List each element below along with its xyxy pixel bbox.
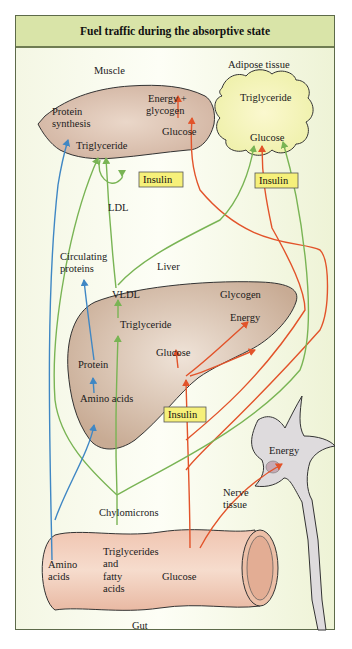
label-vldl: VLDL <box>112 289 140 300</box>
insulin-box-muscle: Insulin <box>139 172 183 187</box>
insulin-label: Insulin <box>168 409 198 420</box>
label-chylomicrons: Chylomicrons <box>99 507 159 518</box>
label-gut-lipids-2: and <box>103 558 119 569</box>
fuel-traffic-diagram: Muscle Energy + glycogen Protein synthes… <box>0 0 352 649</box>
label-muscle-triglyceride: Triglyceride <box>76 140 128 151</box>
insulin-label: Insulin <box>259 175 289 186</box>
label-gut-lipids-3: fatty <box>103 571 123 582</box>
label-protein-synthesis-1: Protein <box>52 106 83 117</box>
muscle-title: Muscle <box>94 65 125 76</box>
gut-body <box>42 530 260 611</box>
label-gut-lipids-1: Triglycerides <box>103 546 159 557</box>
label-nerve-tissue-1: Nerve <box>223 487 249 498</box>
label-liver-protein: Protein <box>78 359 109 370</box>
label-liver-glucose: Glucose <box>156 347 191 358</box>
label-gut-amino-2: acids <box>48 571 70 582</box>
label-liver-amino-acids: Amino acids <box>80 393 133 404</box>
label-nerve-energy: Energy <box>269 445 300 456</box>
label-gut-glucose: Glucose <box>162 571 197 582</box>
label-adipose-triglyceride: Triglyceride <box>240 92 292 103</box>
label-energy-glycogen-1: Energy + <box>148 93 187 104</box>
label-circulating-proteins-1: Circulating <box>60 251 108 262</box>
label-gut-amino-1: Amino <box>48 559 77 570</box>
label-gut-lipids-4: acids <box>103 583 125 594</box>
insulin-box-liver: Insulin <box>164 407 206 422</box>
label-adipose-glucose: Glucose <box>250 132 285 143</box>
liver-title: Liver <box>157 261 180 272</box>
label-circulating-proteins-2: proteins <box>60 263 94 274</box>
label-energy-glycogen-2: glycogen <box>146 105 185 116</box>
label-nerve-tissue-2: tissue <box>223 499 247 510</box>
label-liver-triglyceride: Triglyceride <box>120 319 172 330</box>
insulin-box-adipose: Insulin <box>255 173 298 188</box>
insulin-label: Insulin <box>143 174 173 185</box>
label-liver-glycogen: Glycogen <box>220 289 262 300</box>
adipose-title: Adipose tissue <box>228 59 290 70</box>
gut-lumen <box>247 536 273 600</box>
gut-title: Gut <box>132 620 148 631</box>
label-muscle-glucose: Glucose <box>162 126 197 137</box>
label-protein-synthesis-2: synthesis <box>52 118 91 129</box>
label-liver-energy: Energy <box>230 312 261 323</box>
label-ldl: LDL <box>108 202 128 213</box>
